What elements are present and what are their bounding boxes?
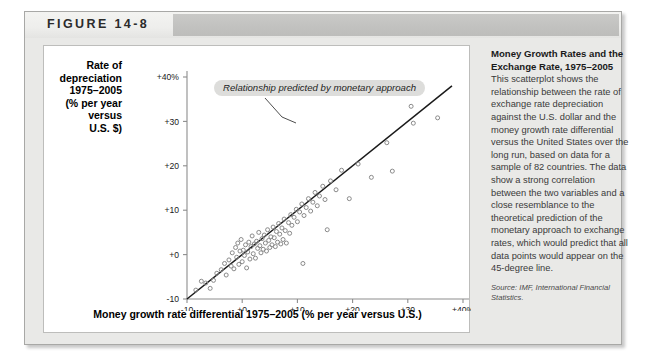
scatter-point: [325, 228, 329, 232]
annotation-callout: Relationship predicted by monetary appro…: [214, 80, 425, 96]
scatter-point: [236, 241, 240, 245]
scatter-point: [266, 228, 270, 232]
scatter-point: [208, 286, 212, 290]
scatter-point: [309, 209, 313, 213]
y-tick-label: -10: [167, 294, 180, 304]
scatter-point: [199, 279, 203, 283]
x-axis-title: Money growth rate differential 1975–2005…: [44, 308, 471, 320]
scatter-point: [224, 273, 228, 277]
scatter-point: [227, 258, 231, 262]
scatter-point: [232, 267, 236, 271]
scatter-point: [306, 197, 310, 201]
scatter-point: [321, 184, 325, 188]
y-tick-label: +20: [164, 161, 179, 171]
scatter-point: [278, 232, 282, 236]
scatter-point: [258, 244, 262, 248]
scatter-point: [290, 223, 294, 227]
scatter-point: [347, 197, 351, 201]
scatter-point: [253, 256, 257, 260]
scatter-point: [257, 230, 261, 234]
scatter-point: [323, 198, 327, 202]
scatter-point: [301, 261, 305, 265]
scatter-point: [340, 168, 344, 172]
figure-header-band: FIGURE 14-8: [25, 12, 621, 38]
annotation-leader-line: [265, 98, 296, 123]
scatter-point: [239, 238, 243, 242]
scatter-point: [409, 104, 413, 108]
scatter-point: [256, 246, 260, 250]
scatter-point: [317, 194, 321, 198]
figure-box: FIGURE 14-8 Rate of depreciation 1975–20…: [24, 11, 622, 345]
y-tick-label: +40%: [157, 72, 180, 82]
caption-body: This scatterplot shows the relationship …: [491, 74, 628, 273]
scatter-point: [284, 241, 288, 245]
caption-source: Source: IMF, International Financial Sta…: [491, 283, 631, 303]
figure-number-label: FIGURE 14-8: [47, 17, 149, 31]
scatter-point: [271, 225, 275, 229]
scatter-point: [302, 214, 306, 218]
scatter-point: [436, 116, 440, 120]
scatter-point: [247, 240, 251, 244]
figure-caption: Money Growth Rates and the Exchange Rate…: [491, 48, 631, 303]
y-tick-label: +30: [164, 117, 179, 127]
scatter-point: [390, 169, 394, 173]
scatter-points: [194, 104, 440, 292]
annotation-text: Relationship predicted by monetary appro…: [223, 82, 416, 93]
scatter-point: [300, 202, 304, 206]
scatter-point: [315, 204, 319, 208]
scatter-point: [251, 252, 255, 256]
scatter-point: [356, 162, 360, 166]
scatter-point: [295, 220, 299, 224]
scatter-point: [240, 260, 244, 264]
scatter-point: [304, 206, 308, 210]
scatter-point: [212, 278, 216, 282]
scatter-point: [283, 229, 287, 233]
scatter-point: [292, 215, 296, 219]
caption-heading: Money Growth Rates and the Exchange Rate…: [491, 48, 623, 72]
scatter-point: [279, 242, 283, 246]
scatter-point: [385, 141, 389, 145]
scatter-point: [334, 188, 338, 192]
scatter-point: [264, 249, 268, 253]
scatter-point: [411, 121, 415, 125]
header-swatch: [173, 14, 619, 36]
scatter-point: [234, 246, 238, 250]
forty-five-degree-line: [187, 86, 452, 299]
scatter-point: [329, 179, 333, 183]
scatter-point: [273, 245, 277, 249]
scatter-point: [223, 261, 227, 265]
figure-page: FIGURE 14-8 Rate of depreciation 1975–20…: [0, 0, 661, 360]
y-tick-label: +10: [164, 205, 179, 215]
scatter-point: [311, 200, 315, 204]
scatter-point: [281, 238, 285, 242]
scatter-point: [245, 266, 249, 270]
scatter-point: [248, 257, 252, 261]
scatter-point: [313, 190, 317, 194]
scatter-point: [250, 234, 254, 238]
scatter-point: [230, 251, 234, 255]
scatter-point: [288, 231, 292, 235]
scatter-point: [242, 253, 246, 257]
y-tick-label: +0: [169, 250, 179, 260]
scatter-point: [298, 210, 302, 214]
plot-panel: Rate of depreciation 1975–2005 (% per ye…: [43, 45, 470, 333]
scatter-point: [369, 175, 373, 179]
